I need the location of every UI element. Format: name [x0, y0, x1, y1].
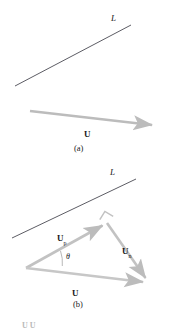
vector-U-b — [26, 268, 143, 282]
vector-label-Up: Up — [57, 228, 67, 246]
line-label-L-b: L — [110, 168, 115, 177]
vector-projection-figure: L U (a) L Up Un U θ (b) U U — [0, 0, 169, 328]
vector-label-U-a: U — [84, 130, 91, 139]
right-angle-marker — [100, 211, 113, 219]
panel-caption-b: (b) — [73, 300, 83, 309]
panel-caption-a: (a) — [74, 144, 83, 153]
angle-label-theta: θ — [66, 253, 70, 261]
vector-label-U-b: U — [72, 289, 79, 298]
line-L-b — [12, 179, 136, 238]
vector-label-Un-sub: n — [129, 253, 132, 259]
line-label-L-a: L — [111, 14, 116, 23]
vector-label-Up-sub: p — [64, 240, 67, 246]
vector-U-a — [30, 111, 152, 125]
figure-canvas — [0, 0, 169, 328]
vector-label-Un: Un — [122, 241, 132, 259]
line-L-a — [15, 25, 131, 86]
footer-partial-text: U U — [22, 322, 36, 328]
angle-arc-theta — [61, 251, 63, 266]
